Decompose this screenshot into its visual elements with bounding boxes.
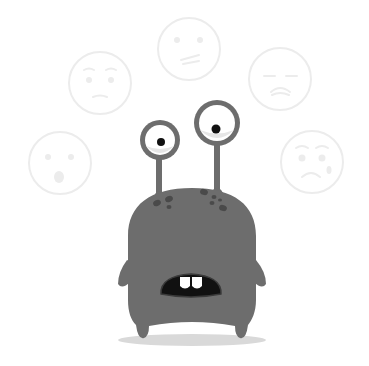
emotion-faces xyxy=(29,18,343,194)
monster-body xyxy=(128,188,256,338)
left-eye xyxy=(140,120,180,160)
sad-face-icon xyxy=(249,48,311,110)
right-tooth xyxy=(192,277,202,289)
right-eye xyxy=(194,100,240,146)
right-eyestalk xyxy=(214,140,220,192)
monster xyxy=(118,100,266,338)
left-tooth xyxy=(180,277,190,289)
monster-illustration xyxy=(0,0,369,366)
confused-face-icon xyxy=(158,18,220,80)
surprised-face-icon xyxy=(29,132,91,194)
worried-face-icon xyxy=(69,52,131,114)
crying-face-icon xyxy=(281,131,343,193)
